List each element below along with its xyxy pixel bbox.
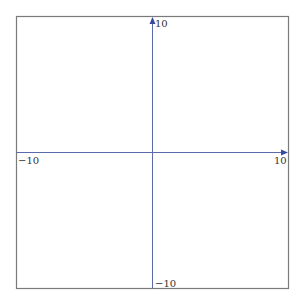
x-min-tick-label: −10 [18, 156, 39, 166]
y-max-tick-label: 10 [155, 19, 168, 29]
x-max-tick-label: 10 [274, 156, 287, 166]
coordinate-plane: 10 −10 10 −10 [0, 0, 305, 305]
y-min-tick-label: −10 [155, 279, 176, 289]
axes-canvas [0, 0, 305, 305]
